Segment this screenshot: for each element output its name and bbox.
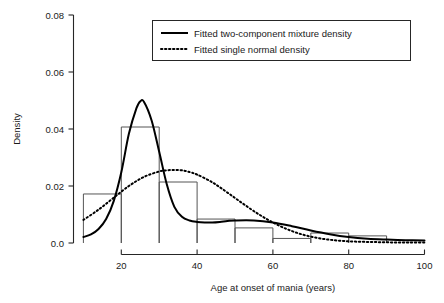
chart-canvas: 0.08 0.06 0.04 0.02 0.0 Density 20 40 60…: [0, 0, 444, 303]
y-tick-label-0.06: 0.06: [46, 67, 65, 78]
legend-label-mixture: Fitted two-component mixture density: [194, 28, 352, 39]
x-axis-title: Age at onset of mania (years): [211, 282, 336, 293]
y-axis-title: Density: [11, 113, 22, 145]
x-axis: 20 40 60 80 100 Age at onset of mania (y…: [116, 250, 432, 294]
x-tick-label-80: 80: [343, 260, 354, 271]
y-tick-label-0.0: 0.0: [51, 238, 64, 249]
y-tick-label-0.04: 0.04: [46, 124, 65, 135]
curve-fitted-single-normal-density: [83, 170, 424, 242]
legend-label-single-normal: Fitted single normal density: [194, 44, 310, 55]
y-tick-label-0.02: 0.02: [46, 181, 65, 192]
legend-frame: [153, 21, 411, 61]
y-axis: 0.08 0.06 0.04 0.02 0.0 Density: [11, 10, 74, 249]
x-tick-label-60: 60: [268, 260, 279, 271]
density-chart-figure: 0.08 0.06 0.04 0.02 0.0 Density 20 40 60…: [0, 0, 444, 303]
y-tick-label-0.08: 0.08: [46, 10, 65, 21]
curve-fitted-two-component-mixture-density: [83, 100, 424, 240]
legend: Fitted two-component mixture density Fit…: [153, 21, 411, 61]
x-tick-label-40: 40: [192, 260, 203, 271]
x-tick-label-100: 100: [417, 260, 433, 271]
x-tick-label-20: 20: [116, 260, 127, 271]
